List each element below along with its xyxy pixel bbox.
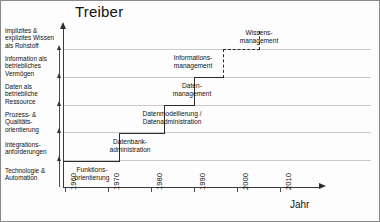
- x-tick-label-1980: 1980: [155, 173, 164, 190]
- step-label-line-1: Wissens-: [230, 29, 288, 37]
- step-segment-h-5-dashed: [223, 49, 260, 50]
- step-label-funktionsorientierung: Funktions- orientierung: [63, 166, 121, 181]
- step-label-line-2: management: [164, 62, 222, 70]
- step-segment-h-1: [64, 161, 120, 162]
- y-label-integration: Integrations-anforderungen: [5, 141, 61, 156]
- step-label-line-2: Datenadministration: [120, 118, 224, 126]
- x-tick-label-1990: 1990: [198, 173, 207, 190]
- step-label-datenbankadministration: Datenbank- administration: [94, 138, 166, 153]
- step-segment-v-5-dashed: [223, 49, 224, 78]
- y-label-technologie: Technologie & Automation: [5, 167, 61, 182]
- step-label-line-2: administration: [94, 146, 166, 154]
- y-label-prozess: Prozess- & Qualitäts-orientierung: [5, 111, 61, 133]
- x-axis-arrow-icon: [319, 183, 326, 189]
- step-segment-h-2: [119, 133, 165, 134]
- step-label-line-1: Informations-: [164, 54, 222, 62]
- x-axis-line: [63, 187, 321, 188]
- y-label-wissen: implizites & explizites Wissen als Rohst…: [5, 27, 61, 49]
- page-title: Treiber: [75, 3, 123, 20]
- x-tick: [151, 187, 152, 192]
- step-segment-h-4: [194, 77, 224, 78]
- gridline: [64, 49, 371, 50]
- x-tick-label-2000: 2000: [241, 173, 250, 190]
- step-label-datenmanagement: Daten- management: [163, 82, 221, 97]
- x-tick-label-2010: 2010: [284, 173, 293, 190]
- figure-container: Treiber implizites & explizites Wissen a…: [0, 0, 380, 222]
- step-label-wissensmanagement: Wissens- management: [230, 29, 288, 44]
- step-label-line-1: Datenmodellierung /: [120, 110, 224, 118]
- x-axis-title: Jahr: [290, 199, 309, 210]
- x-tick: [237, 187, 238, 192]
- step-label-datenmodellierung: Datenmodellierung / Datenadministration: [120, 110, 224, 125]
- x-tick: [280, 187, 281, 192]
- step-label-line-1: Daten-: [163, 82, 221, 90]
- step-label-line-2: orientierung: [63, 174, 121, 182]
- gridline: [64, 105, 371, 106]
- y-axis-line: [63, 27, 64, 187]
- x-tick: [65, 187, 66, 192]
- step-label-informationsmanagement: Informations- management: [164, 54, 222, 69]
- step-label-line-1: Datenbank-: [94, 138, 166, 146]
- step-label-line-2: management: [230, 37, 288, 45]
- step-label-line-2: management: [163, 90, 221, 98]
- y-label-daten: Daten als betriebliche Ressource: [5, 83, 61, 105]
- y-label-information: Information als betriebliches Vermögen: [5, 55, 61, 77]
- x-tick: [108, 187, 109, 192]
- step-label-line-1: Funktions-: [63, 166, 121, 174]
- step-segment-h-3: [164, 105, 195, 106]
- x-tick: [194, 187, 195, 192]
- gridline: [64, 132, 371, 133]
